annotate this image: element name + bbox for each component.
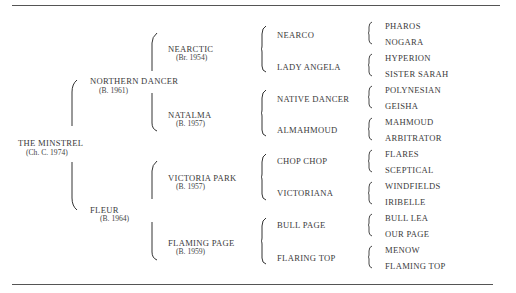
brace-icon [71, 80, 79, 128]
ancestor-name: SISTER SARAH [385, 69, 449, 79]
grandparent-detail: (B. 1959) [176, 247, 205, 256]
ancestor-name: IRIBELLE [385, 197, 426, 207]
parent-detail: (B. 1961) [99, 86, 128, 95]
brace-icon [261, 154, 267, 200]
subject-detail: (Ch. C. 1974) [26, 148, 68, 157]
great-grandparent-name: ALMAHMOUD [277, 125, 337, 135]
great-grandparent-name: NATIVE DANCER [277, 94, 349, 104]
great-grandparent-name: FLARING TOP [277, 253, 336, 263]
ancestor-name: OUR PAGE [385, 229, 429, 239]
ancestor-name: MENOW [385, 245, 420, 255]
brace-icon [368, 54, 373, 76]
great-grandparent-name: NEARCO [277, 30, 314, 40]
subject-name: THE MINSTREL [18, 138, 83, 148]
grandparent-detail: (B. 1957) [176, 182, 205, 191]
brace-icon [368, 86, 373, 108]
great-grandparent-name: LADY ANGELA [277, 62, 341, 72]
ancestor-name: POLYNESIAN [385, 85, 441, 95]
parent-name: NORTHERN DANCER [90, 76, 178, 86]
brace-icon [71, 162, 79, 210]
ancestor-name: HYPERION [385, 53, 431, 63]
ancestor-name: BULL LEA [385, 213, 428, 223]
ancestor-name: PHAROS [385, 21, 421, 31]
grandparent-detail: (B. 1957) [176, 119, 205, 128]
bottom-rule [12, 284, 493, 285]
great-grandparent-name: BULL PAGE [277, 220, 326, 230]
great-grandparent-name: VICTORIANA [277, 188, 333, 198]
ancestor-name: WINDFIELDS [385, 181, 441, 191]
brace-icon [151, 33, 159, 73]
brace-icon [368, 22, 373, 44]
ancestor-name: MAHMOUD [385, 117, 433, 127]
brace-icon [151, 161, 159, 201]
brace-icon [368, 246, 373, 268]
top-rule [12, 5, 500, 6]
brace-icon [261, 218, 267, 264]
ancestor-name: GEISHA [385, 101, 418, 111]
brace-icon [261, 26, 267, 72]
ancestor-name: ARBITRATOR [385, 133, 442, 143]
ancestor-name: SCEPTICAL [385, 165, 434, 175]
ancestor-name: NOGARA [385, 37, 424, 47]
brace-icon [151, 222, 159, 260]
brace-icon [368, 150, 373, 172]
grandparent-detail: (Br. 1954) [176, 53, 207, 62]
brace-icon [368, 182, 373, 204]
great-grandparent-name: CHOP CHOP [277, 156, 327, 166]
parent-detail: (B. 1964) [100, 214, 129, 223]
ancestor-name: FLARES [385, 149, 419, 159]
brace-icon [151, 93, 159, 131]
brace-icon [368, 214, 373, 236]
brace-icon [368, 118, 373, 140]
ancestor-name: FLAMING TOP [385, 261, 446, 271]
brace-icon [261, 90, 267, 136]
